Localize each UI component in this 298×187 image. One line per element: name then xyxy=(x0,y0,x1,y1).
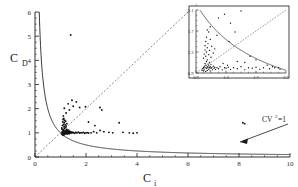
x-tick-label: 0 xyxy=(33,160,37,168)
inset-data-point xyxy=(211,46,212,47)
data-point xyxy=(71,99,73,101)
data-point xyxy=(79,107,81,109)
data-point xyxy=(65,112,67,114)
data-point xyxy=(61,128,63,130)
inset-data-point xyxy=(233,67,234,68)
data-point xyxy=(72,105,74,107)
scatter-plot-figure: 02468100123456 C D C i CV 2 =1 0.91.31.7… xyxy=(0,0,298,187)
inset-x-tick-label: 1.3 xyxy=(223,75,229,80)
inset-data-point xyxy=(208,69,209,70)
inset-data-point xyxy=(208,31,209,32)
y-tick-label: 6 xyxy=(28,9,32,17)
inset-data-point xyxy=(207,67,208,68)
inset-data-point xyxy=(204,45,205,46)
data-point xyxy=(101,109,103,111)
inset-data-point xyxy=(206,68,207,69)
x-tick-label: 4 xyxy=(135,160,139,168)
inset-data-point xyxy=(244,69,245,70)
inset-y-tick-label: 0.9 xyxy=(188,71,194,76)
inset-data-point xyxy=(204,49,205,50)
annotation-label-suffix: =1 xyxy=(278,115,286,124)
inset-data-point xyxy=(274,67,275,68)
inset-y-tick-label: 1.7 xyxy=(188,29,194,34)
inset-data-point xyxy=(206,61,207,62)
inset-data-point xyxy=(215,69,216,70)
inset-data-point xyxy=(279,69,280,70)
data-point xyxy=(112,132,114,134)
inset-data-point xyxy=(230,69,231,70)
x-tick-label: 6 xyxy=(186,160,190,168)
inset-data-point xyxy=(204,63,205,64)
inset-plot: 0.91.31.72.10.91.31.72.1 xyxy=(188,6,290,80)
inset-data-point xyxy=(204,53,205,54)
inset-data-point xyxy=(237,61,238,62)
data-point xyxy=(122,131,124,133)
data-point xyxy=(67,103,69,105)
data-point xyxy=(75,131,77,133)
inset-data-point xyxy=(278,67,279,68)
inset-data-point xyxy=(209,62,210,63)
y-tick-label: 2 xyxy=(28,105,32,113)
data-point xyxy=(88,121,90,123)
inset-data-point xyxy=(205,71,206,72)
inset-data-point xyxy=(230,22,231,23)
y-axis-label-subscript: D xyxy=(22,59,28,68)
data-point xyxy=(63,107,65,109)
inset-data-point xyxy=(207,47,208,48)
inset-data-point xyxy=(205,56,206,57)
data-point xyxy=(88,132,90,134)
y-tick-label: 4 xyxy=(28,57,32,65)
inset-data-point xyxy=(207,59,208,60)
inset-data-point xyxy=(263,67,264,68)
inset-data-point xyxy=(210,64,211,65)
data-point xyxy=(75,101,77,103)
inset-data-point xyxy=(240,10,241,11)
data-point xyxy=(128,132,130,134)
inset-data-point xyxy=(224,14,225,15)
y-axis-label: C xyxy=(10,51,18,65)
inset-data-point xyxy=(213,65,214,66)
inset-data-point xyxy=(210,39,211,40)
inset-data-point xyxy=(228,41,229,42)
y-tick-label: 3 xyxy=(28,81,32,89)
inset-data-point xyxy=(205,64,206,65)
inset-data-point xyxy=(211,67,212,68)
y-tick-label: 1 xyxy=(28,129,32,137)
inset-data-point xyxy=(248,67,249,68)
inset-data-point xyxy=(208,54,209,55)
inset-data-point xyxy=(206,37,207,38)
inset-data-point xyxy=(228,67,229,68)
inset-data-point xyxy=(210,26,211,27)
inset-data-point xyxy=(222,63,223,64)
inset-data-point xyxy=(218,17,219,18)
inset-data-point xyxy=(216,67,217,68)
inset-data-point xyxy=(219,66,220,67)
data-point xyxy=(63,117,65,119)
inset-data-point xyxy=(210,70,211,71)
inset-data-point xyxy=(218,68,219,69)
inset-data-point xyxy=(214,67,215,68)
annotation-label: CV xyxy=(262,115,273,124)
inset-data-point xyxy=(203,67,204,68)
inset-data-point xyxy=(210,57,211,58)
data-point xyxy=(63,122,65,124)
data-point xyxy=(65,120,67,122)
data-point xyxy=(99,129,101,131)
inset-data-point xyxy=(222,69,223,70)
y-tick-label: 0 xyxy=(28,154,32,162)
data-point xyxy=(62,115,64,117)
inset-y-tick-label: 1.3 xyxy=(188,50,194,55)
data-point xyxy=(103,131,105,133)
inset-x-tick-label: 0.9 xyxy=(193,75,199,80)
inset-data-point xyxy=(207,63,208,64)
inset-data-point xyxy=(206,51,207,52)
data-point xyxy=(94,125,96,127)
inset-data-point xyxy=(255,67,256,68)
data-point xyxy=(70,34,72,36)
data-point xyxy=(96,132,98,134)
inset-data-point xyxy=(209,50,210,51)
x-tick-label: 8 xyxy=(237,160,241,168)
inset-data-point xyxy=(207,70,208,71)
inset-data-point xyxy=(205,41,206,42)
inset-data-point xyxy=(237,68,238,69)
